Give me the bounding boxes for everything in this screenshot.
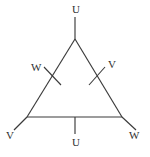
diagram-canvas: U W V V U W [0,0,150,157]
triangle-diagram-svg [0,0,150,157]
triangle-left-edge [27,39,75,117]
left-edge-tick-mark [44,67,61,85]
label-right-edge-tick: V [108,59,116,70]
label-bottom-left-terminal: V [6,130,14,141]
right-edge-tick-mark [89,67,105,85]
terminal-stub-bottom-left [14,117,27,130]
label-top-terminal: U [72,4,80,15]
label-bottom-mid-terminal: U [72,137,80,148]
label-bottom-right-terminal: W [129,130,140,141]
triangle-right-edge [75,39,122,117]
label-left-edge-tick: W [31,62,42,73]
